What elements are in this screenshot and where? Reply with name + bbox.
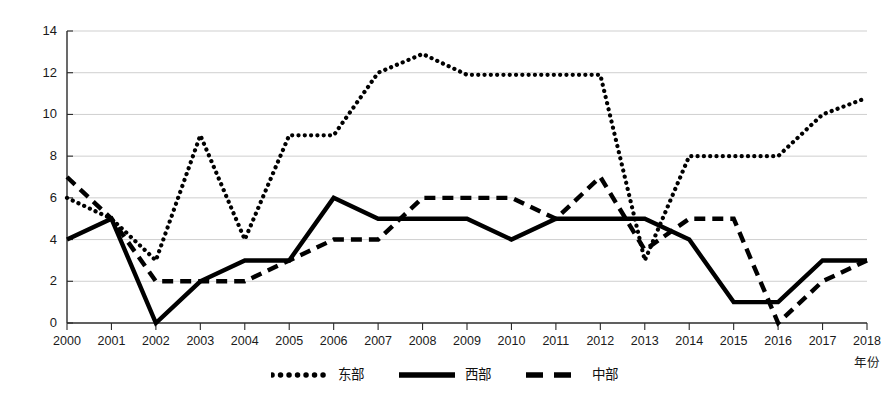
legend-item: 东部 — [271, 368, 364, 382]
x-axis-tick-label: 2000 — [44, 334, 90, 348]
legend-label: 西部 — [465, 368, 491, 382]
x-axis-tick-label: 2012 — [577, 334, 623, 348]
legend-label: 中部 — [592, 368, 618, 382]
x-axis-tick-label: 2016 — [755, 334, 801, 348]
x-axis-tick-label: 2001 — [88, 334, 134, 348]
x-axis-tick-label: 2015 — [711, 334, 757, 348]
x-axis-tick-label: 2004 — [222, 334, 268, 348]
y-axis-tick-label: 0 — [31, 315, 57, 330]
data-series-layer — [67, 54, 867, 323]
x-axis-tick-label: 2018 — [844, 334, 889, 348]
x-axis-tick-label: 2017 — [800, 334, 846, 348]
series-line-0 — [67, 54, 867, 260]
legend-swatch-solid-icon — [398, 370, 456, 380]
x-axis-tick-label: 2005 — [266, 334, 312, 348]
x-axis-tick-label: 2014 — [666, 334, 712, 348]
x-axis-tick-label: 2008 — [400, 334, 446, 348]
x-axis-tick-label: 2006 — [311, 334, 357, 348]
y-axis-tick-label: 2 — [31, 273, 57, 288]
legend-item: 中部 — [525, 368, 618, 382]
y-axis-tick-label: 4 — [31, 232, 57, 247]
legend-label: 东部 — [338, 368, 364, 382]
line-chart: 02468101214 2000200120022003200420052006… — [0, 0, 889, 406]
legend-swatch-dotted-icon — [271, 370, 329, 380]
y-axis-tick-label: 10 — [31, 106, 57, 121]
x-axis-ticks — [67, 323, 867, 330]
series-line-1 — [67, 198, 867, 323]
x-axis-tick-label: 2007 — [355, 334, 401, 348]
chart-legend: 东部西部中部 — [0, 368, 889, 382]
x-axis-tick-label: 2011 — [533, 334, 579, 348]
x-axis-tick-label: 2003 — [177, 334, 223, 348]
y-axis-tick-label: 6 — [31, 190, 57, 205]
x-axis-tick-label: 2010 — [488, 334, 534, 348]
legend-swatch-dashed-icon — [525, 370, 583, 380]
y-axis-tick-label: 14 — [31, 23, 57, 38]
y-axis-tick-label: 8 — [31, 148, 57, 163]
x-axis-tick-label: 2009 — [444, 334, 490, 348]
x-axis-tick-label: 2013 — [622, 334, 668, 348]
x-axis-tick-label: 2002 — [133, 334, 179, 348]
y-axis-tick-label: 12 — [31, 65, 57, 80]
legend-item: 西部 — [398, 368, 491, 382]
